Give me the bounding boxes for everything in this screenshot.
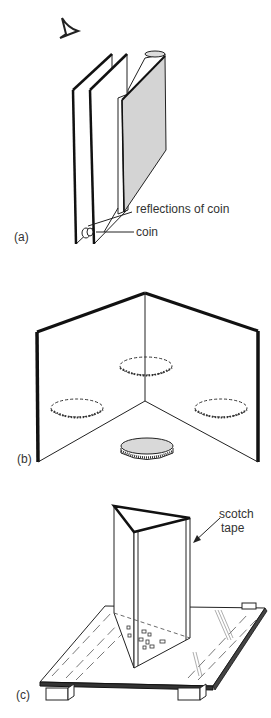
eye-icon bbox=[60, 18, 78, 38]
scotch-tape-label-line2: tape bbox=[221, 522, 244, 534]
coin bbox=[121, 438, 173, 460]
panel-a-label: (a) bbox=[14, 231, 29, 243]
corner-mirrors-illustration bbox=[0, 250, 271, 480]
panel-c-label: (c) bbox=[16, 689, 30, 701]
reflection-center bbox=[120, 357, 172, 376]
left-mirror bbox=[37, 293, 145, 462]
panel-b-label: (b) bbox=[17, 453, 32, 465]
scotch-tape-label-line1: scotch bbox=[219, 508, 254, 520]
tape-arrow bbox=[193, 518, 220, 543]
panel-a-parallel-mirrors: reflections of coin coin (a) bbox=[0, 0, 271, 250]
panel-c-kaleidoscope: scotch tape (c) bbox=[0, 480, 271, 718]
support-block-back bbox=[242, 603, 256, 609]
panel-b-corner-mirrors: (b) bbox=[0, 250, 271, 480]
right-mirror bbox=[145, 293, 258, 462]
reflection-right bbox=[195, 399, 247, 418]
reflection-left bbox=[51, 399, 103, 418]
reflections-of-coin-label: reflections of coin bbox=[136, 203, 229, 215]
mirror-prism bbox=[114, 506, 190, 668]
coin bbox=[82, 228, 93, 238]
coin-label: coin bbox=[136, 226, 158, 238]
